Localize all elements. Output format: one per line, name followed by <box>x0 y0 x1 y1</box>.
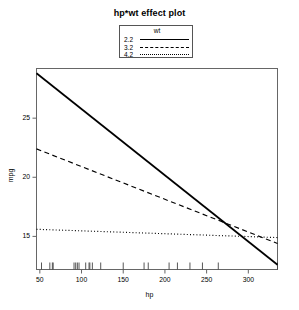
x-tick-label: 100 <box>70 276 94 283</box>
rug-marks <box>42 263 278 270</box>
x-tick-label: 300 <box>236 276 260 283</box>
y-axis-ticks <box>33 118 37 236</box>
effect-plot: hp*wt effect plot wt 2.2 3.2 4.2 mpg hp … <box>0 0 299 310</box>
series-line-4-2 <box>37 229 278 237</box>
data-series <box>37 73 278 265</box>
x-axis-ticks <box>40 270 248 274</box>
series-line-3-2 <box>37 149 278 244</box>
x-tick-label: 150 <box>111 276 135 283</box>
y-tick-label: 20 <box>10 173 30 181</box>
y-tick-label: 25 <box>10 114 30 122</box>
x-tick-label: 50 <box>28 276 52 283</box>
x-tick-label: 250 <box>195 276 219 283</box>
x-axis-label: hp <box>0 291 299 298</box>
plot-area <box>0 0 299 310</box>
x-tick-label: 200 <box>153 276 177 283</box>
y-tick-label: 15 <box>10 232 30 240</box>
